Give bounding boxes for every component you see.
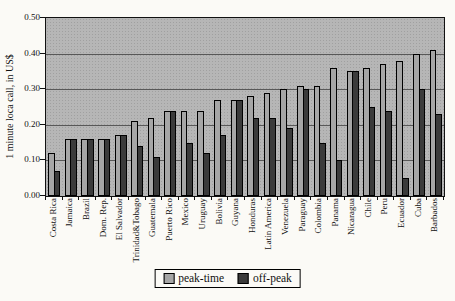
x-axis-tick (62, 196, 63, 200)
y-axis-title-text: 1 minute loca call, in US$ (4, 54, 15, 158)
y-axis-tick (40, 88, 45, 89)
x-axis-label: Peru (379, 198, 390, 288)
x-axis-label: Venezuela (280, 198, 291, 288)
x-axis-label: Honduras (247, 198, 258, 288)
legend: peak-timeoff-peak (154, 269, 301, 288)
x-axis-tick (360, 196, 361, 200)
x-axis-tick (194, 196, 195, 200)
bar-off-peak (402, 178, 409, 196)
bar-chart: 1 minute loca call, in US$ peak-timeoff-… (0, 0, 455, 301)
bar-off-peak (170, 111, 177, 196)
x-axis-label: Guyana (230, 198, 241, 288)
bar-off-peak (104, 139, 111, 196)
y-axis-tick (40, 159, 45, 160)
x-axis-tick (377, 196, 378, 200)
bar-off-peak (352, 71, 359, 196)
x-axis-label: Barbados (429, 198, 440, 288)
y-axis-tick-label: 0.00 (10, 190, 40, 200)
x-axis-label: Bolivia (214, 198, 225, 288)
y-axis-tick (40, 124, 45, 125)
x-axis-tick (178, 196, 179, 200)
bar-off-peak (253, 118, 260, 196)
bar-off-peak (54, 171, 61, 196)
x-axis-label: El Salvador (114, 198, 125, 288)
bar-off-peak (336, 160, 343, 196)
x-axis-label: Paraguay (297, 198, 308, 288)
bar-peak-time (396, 61, 403, 196)
bar-off-peak (220, 135, 227, 196)
x-axis-tick (244, 196, 245, 200)
x-axis-tick (310, 196, 311, 200)
plot-area (45, 17, 445, 197)
x-axis-label: Brazil (81, 198, 92, 288)
x-axis-tick (227, 196, 228, 200)
bar-off-peak (87, 139, 94, 196)
y-axis-tick-label: 0.20 (10, 119, 40, 129)
x-axis-tick (344, 196, 345, 200)
x-axis-label: Mexico (180, 198, 191, 288)
x-axis-tick (161, 196, 162, 200)
x-axis-label: Nicaragua (346, 198, 357, 288)
x-axis-label: Dom. Rep. (98, 198, 109, 288)
bar-off-peak (186, 143, 193, 196)
bar-off-peak (419, 89, 426, 196)
x-axis-tick (443, 196, 444, 200)
bar-off-peak (137, 146, 144, 196)
bar-off-peak (303, 89, 310, 196)
x-axis-label: Cuba (413, 198, 424, 288)
x-axis-label: Costa Rica (48, 198, 59, 288)
x-axis-tick (410, 196, 411, 200)
y-axis-tick (40, 17, 45, 18)
x-axis-label: Ecuador (396, 198, 407, 288)
bar-off-peak (435, 114, 442, 196)
x-axis-tick (327, 196, 328, 200)
x-axis-label: Latin America (263, 198, 274, 288)
x-axis-tick (128, 196, 129, 200)
y-axis-tick-label: 0.40 (10, 48, 40, 58)
x-axis-tick (145, 196, 146, 200)
x-axis-tick (211, 196, 212, 200)
y-axis-tick-label: 0.50 (10, 12, 40, 22)
y-axis-tick-label: 0.30 (10, 83, 40, 93)
x-axis-tick (95, 196, 96, 200)
bar-off-peak (269, 118, 276, 196)
x-axis-tick (45, 196, 46, 200)
x-axis-label: Trinidad&Tobago (131, 198, 142, 288)
x-axis-tick (78, 196, 79, 200)
bar-off-peak (153, 157, 160, 196)
x-axis-tick (111, 196, 112, 200)
x-axis-label: Puerto Rico (164, 198, 175, 288)
x-axis-label: Panama (330, 198, 341, 288)
bar-off-peak (369, 107, 376, 196)
x-axis-label: Jamaica (64, 198, 75, 288)
bar-off-peak (286, 128, 293, 196)
x-axis-label: Guatemala (147, 198, 158, 288)
bar-off-peak (70, 139, 77, 196)
y-axis-tick (40, 53, 45, 54)
x-axis-label: Uruguay (197, 198, 208, 288)
bar-off-peak (319, 143, 326, 196)
bar-off-peak (236, 100, 243, 196)
bar-off-peak (385, 111, 392, 196)
x-axis-label: Chile (363, 198, 374, 288)
gridline (46, 54, 444, 55)
y-axis-title: 1 minute loca call, in US$ (0, 17, 18, 195)
x-axis-tick (294, 196, 295, 200)
x-axis-label: Colombia (313, 198, 324, 288)
bar-off-peak (120, 135, 127, 196)
x-axis-tick (393, 196, 394, 200)
x-axis-tick (261, 196, 262, 200)
x-axis-tick (277, 196, 278, 200)
bar-off-peak (203, 153, 210, 196)
x-axis-tick (426, 196, 427, 200)
y-axis-tick-label: 0.10 (10, 154, 40, 164)
